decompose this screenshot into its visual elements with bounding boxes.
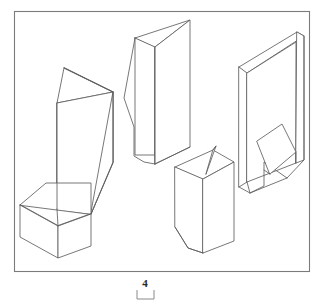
technical-line-drawing: 4: [0, 0, 323, 303]
figure-root: 4: [0, 0, 323, 303]
channel-right-outer-wall: [296, 32, 304, 163]
wedge-left-face: [135, 38, 155, 155]
figure-caption-number: 4: [142, 277, 148, 289]
scale-bar: [137, 290, 154, 299]
channel-left-outer-wall: [239, 67, 247, 187]
